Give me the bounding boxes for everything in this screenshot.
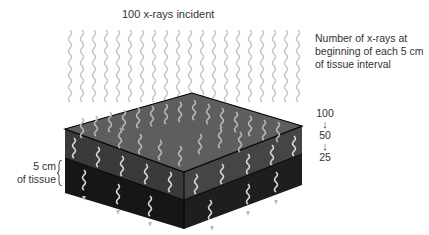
x-ray-counts: 100 ↓ 50 ↓ 25: [308, 108, 342, 163]
legend-text: Number of x-rays at beginning of each 5 …: [315, 32, 427, 71]
tissue-thickness-label: 5 cm of tissue: [10, 160, 56, 186]
tissue-label-line: 5 cm: [10, 160, 56, 173]
brace-icon: [57, 160, 63, 186]
legend-line: beginning of each 5 cm: [315, 45, 427, 58]
legend-line: Number of x-rays at: [315, 32, 427, 45]
tissue-label-line: of tissue: [10, 173, 56, 186]
count-value: 25: [308, 152, 342, 163]
diagram-title: 100 x-rays incident: [122, 8, 214, 20]
legend-line: of tissue interval: [315, 58, 427, 71]
incident-x-ray-waves: [69, 30, 300, 102]
